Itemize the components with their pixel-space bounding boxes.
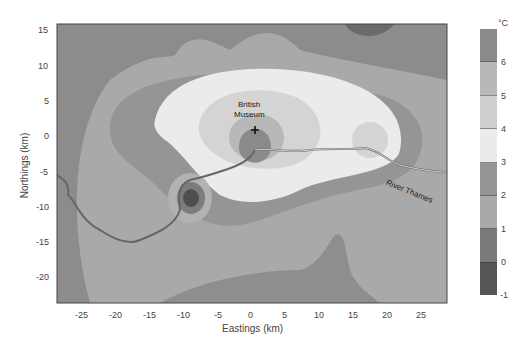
x-tick: 10	[314, 310, 324, 320]
x-tick: 15	[348, 310, 358, 320]
x-tick: 25	[416, 310, 426, 320]
colorbar-tick: 2	[501, 190, 506, 200]
y-tick: -10	[36, 202, 49, 212]
contour-map	[0, 0, 529, 344]
colorbar-tick: 4	[501, 124, 506, 134]
colorbar-tick: 6	[501, 57, 506, 67]
colorbar	[480, 29, 497, 295]
colorbar-tick: 1	[501, 224, 506, 234]
x-tick: -15	[143, 310, 156, 320]
y-axis-label: Northings (km)	[19, 133, 30, 199]
x-tick: -5	[214, 310, 222, 320]
y-tick: 15	[38, 25, 48, 35]
y-tick: 10	[38, 61, 48, 71]
colorbar-unit: °C	[498, 18, 508, 28]
colorbar-tick: -1	[500, 290, 508, 300]
y-tick: -5	[40, 167, 48, 177]
colorbar-tick: 3	[501, 157, 506, 167]
x-axis-label: Eastings (km)	[222, 323, 283, 334]
colorbar-tick: 0	[501, 257, 506, 267]
annotation-british: British	[238, 100, 260, 109]
y-tick: 5	[44, 96, 49, 106]
x-tick: -25	[75, 310, 88, 320]
x-tick: -20	[109, 310, 122, 320]
colorbar-tick: 5	[501, 91, 506, 101]
y-tick: -20	[36, 272, 49, 282]
annotation-museum: Museum	[234, 110, 265, 119]
x-tick: 20	[382, 310, 392, 320]
x-tick: -10	[177, 310, 190, 320]
y-tick: 0	[44, 131, 49, 141]
y-tick: -15	[36, 237, 49, 247]
x-tick: 5	[282, 310, 287, 320]
x-tick: 0	[248, 310, 253, 320]
